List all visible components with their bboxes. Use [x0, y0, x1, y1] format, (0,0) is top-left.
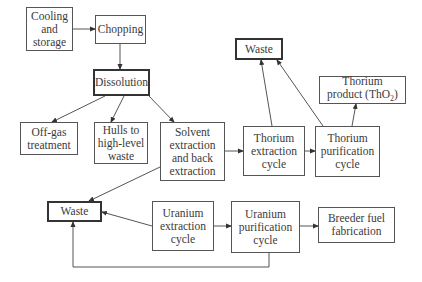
node-label: Thorium product (ThO2): [327, 75, 398, 105]
node-label: Thorium extraction cycle: [251, 132, 297, 171]
node-label: Solvent extraction and back extraction: [170, 126, 216, 178]
node-label: Waste: [245, 43, 273, 56]
node-off-gas-treatment: Off-gas treatment: [20, 122, 78, 155]
node-label: Thorium purification cycle: [321, 132, 375, 171]
node-label: Waste: [61, 205, 89, 218]
node-label: Uranium extraction cycle: [160, 207, 206, 246]
node-label: Chopping: [98, 23, 143, 36]
node-hulls-to-high-level-waste: Hulls to high-level waste: [94, 122, 148, 164]
node-thorium-purification-cycle: Thorium purification cycle: [315, 126, 380, 177]
node-dissolution: Dissolution: [93, 69, 150, 96]
node-waste-bottom: Waste: [47, 201, 102, 222]
node-cooling-and-storage: Cooling and storage: [26, 7, 73, 51]
node-label-main: Thorium product (ThO: [327, 75, 390, 100]
node-label-end: ): [394, 88, 398, 100]
node-thorium-product: Thorium product (ThO2): [319, 76, 406, 104]
node-breeder-fuel-fabrication: Breeder fuel fabrication: [318, 207, 395, 243]
node-label: Cooling and storage: [31, 10, 68, 49]
process-flow-diagram: Cooling and storage Chopping Dissolution…: [0, 0, 422, 282]
node-label: Breeder fuel fabrication: [328, 212, 385, 238]
node-uranium-purification-cycle: Uranium purification cycle: [231, 201, 300, 253]
node-label: Dissolution: [95, 76, 148, 89]
node-label: Off-gas treatment: [27, 126, 70, 152]
node-waste-top: Waste: [235, 38, 283, 60]
node-chopping: Chopping: [95, 15, 146, 44]
node-uranium-extraction-cycle: Uranium extraction cycle: [152, 201, 214, 251]
node-label: Hulls to high-level waste: [98, 124, 145, 163]
node-solvent-extraction: Solvent extraction and back extraction: [160, 122, 225, 181]
node-label: Uranium purification cycle: [239, 208, 293, 247]
node-thorium-extraction-cycle: Thorium extraction cycle: [243, 126, 305, 176]
